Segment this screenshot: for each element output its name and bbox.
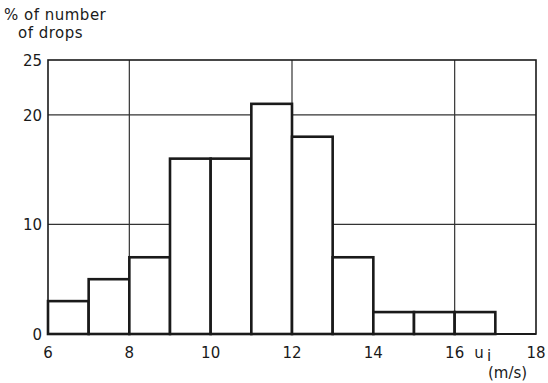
histogram-bar xyxy=(292,137,333,334)
histogram-bar xyxy=(129,257,170,334)
x-tick-label: 14 xyxy=(364,344,383,362)
histogram-bar xyxy=(48,301,89,334)
histogram-bar xyxy=(89,279,130,334)
y-tick-label: 20 xyxy=(23,107,42,125)
x-tick-label: 6 xyxy=(43,344,53,362)
x-axis-symbol: u xyxy=(474,344,484,362)
y-tick-label: 10 xyxy=(23,216,42,234)
histogram-chart: 0102025681012141618ui(m/s) xyxy=(0,0,548,383)
x-tick-label: 8 xyxy=(125,344,135,362)
y-tick-label: 0 xyxy=(32,326,42,344)
x-axis-units: (m/s) xyxy=(488,364,527,382)
x-tick-label: 18 xyxy=(526,344,545,362)
histogram-bar xyxy=(373,312,414,334)
x-tick-label: 10 xyxy=(201,344,220,362)
x-axis-subscript: i xyxy=(487,347,491,365)
histogram-bar xyxy=(333,257,374,334)
histogram-bar xyxy=(211,159,252,334)
histogram-bar xyxy=(170,159,211,334)
histogram-bar xyxy=(414,312,455,334)
x-tick-label: 16 xyxy=(445,344,464,362)
histogram-bar xyxy=(251,104,292,334)
x-tick-label: 12 xyxy=(282,344,301,362)
histogram-bar xyxy=(455,312,496,334)
y-tick-label: 25 xyxy=(23,52,42,70)
